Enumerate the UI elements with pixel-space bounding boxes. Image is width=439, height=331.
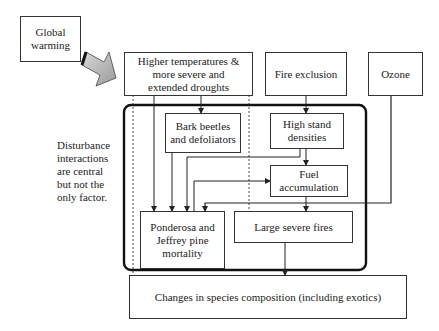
node-label: Fire exclusion [275,68,338,81]
node-ozone: Ozone [368,52,423,96]
node-label: mortality [162,247,202,260]
node-label: Large severe fires [254,221,333,234]
node-label: accumulation [279,181,338,194]
note-line: interactions [57,152,119,165]
node-global-warming: Global warming [20,16,81,62]
node-label: Higher temperatures & [138,55,239,68]
note-line: but not the [57,178,119,191]
node-label: more severe and [152,68,224,81]
node-label: densities [288,131,327,144]
node-high-stand-densities: High stand densities [270,113,344,149]
node-label: and defoliators [170,133,236,146]
node-label: Jeffrey pine [156,234,208,247]
node-label: Global [36,26,66,39]
node-large-severe-fires: Large severe fires [234,211,353,243]
node-pine-mortality: Ponderosa and Jeffrey pine mortality [140,211,225,269]
node-higher-temperatures: Higher temperatures & more severe and ex… [124,52,253,96]
node-label: Bark beetles [176,120,231,133]
node-label: extended droughts [148,81,229,94]
node-label: Ozone [381,68,410,81]
node-label: High stand [283,118,331,131]
block-arrow-icon [82,52,116,86]
node-label: warming [31,39,70,52]
note-line: Disturbance [57,139,119,152]
node-fire-exclusion: Fire exclusion [265,52,347,96]
note-line: only factor. [57,191,119,204]
node-bark-beetles: Bark beetles and defoliators [165,113,241,153]
node-species-composition: Changes in species composition (includin… [129,275,407,319]
node-label: Fuel [299,168,319,181]
node-label: Changes in species composition (includin… [155,291,381,304]
note-line: are central [57,165,119,178]
node-fuel-accumulation: Fuel accumulation [270,165,348,197]
node-label: Ponderosa and [150,221,214,234]
disturbance-note: Disturbance interactions are central but… [57,139,119,204]
